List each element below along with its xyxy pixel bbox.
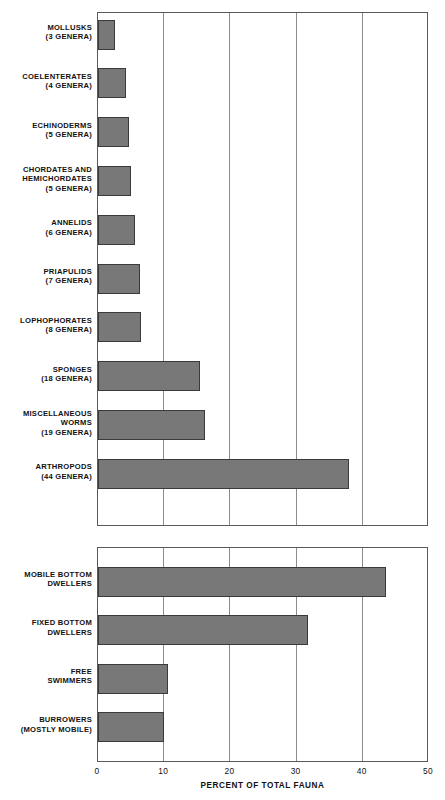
category-label: LOPHOPHORATES (8 GENERA) [0,316,92,335]
x-tick-30: 30 [291,766,301,776]
category-label: ARTHROPODS (44 GENERA) [0,462,92,481]
category-label: MOBILE BOTTOM DWELLERS [0,570,92,589]
category-label: CHORDATES AND HEMICHORDATES (5 GENERA) [0,165,92,194]
category-label: FIXED BOTTOM DWELLERS [0,618,92,637]
bar [98,615,308,645]
x-tick-50: 50 [423,766,433,776]
bar [98,215,135,245]
bar [98,264,140,294]
bar [98,459,349,489]
gridline-40 [362,13,363,525]
bar [98,166,131,196]
x-tick-40: 40 [357,766,367,776]
bar [98,410,205,440]
chart-figure: 01020304050 PERCENT OF TOTAL FAUNA MOLLU… [0,0,445,800]
category-label: PRIAPULIDS (7 GENERA) [0,267,92,286]
gridline-10 [163,13,164,525]
category-label: BURROWERS (MOSTLY MOBILE) [0,715,92,734]
x-tick-10: 10 [158,766,168,776]
gridline-30 [296,13,297,525]
category-label: MOLLUSKS (3 GENERA) [0,23,92,42]
plot-panel-life-habit-groups [97,547,428,762]
category-label: SPONGES (18 GENERA) [0,365,92,384]
plot-panel-taxonomic-groups [97,12,428,526]
gridline-20 [229,13,230,525]
bar [98,712,164,742]
category-label: MISCELLANEOUS WORMS (19 GENERA) [0,409,92,438]
category-label: COELENTERATES (4 GENERA) [0,72,92,91]
bar [98,312,141,342]
bar [98,664,168,694]
x-tick-20: 20 [224,766,234,776]
x-tick-0: 0 [95,766,100,776]
bar [98,20,115,50]
category-label: FREE SWIMMERS [0,667,92,686]
bar [98,361,200,391]
x-axis-title: PERCENT OF TOTAL FAUNA [97,781,428,790]
bar [98,68,126,98]
bar [98,117,129,147]
category-label: ANNELIDS (6 GENERA) [0,218,92,237]
category-label: ECHINODERMS (5 GENERA) [0,121,92,140]
bar [98,567,386,597]
x-axis-tick-labels: 01020304050 [0,766,445,780]
